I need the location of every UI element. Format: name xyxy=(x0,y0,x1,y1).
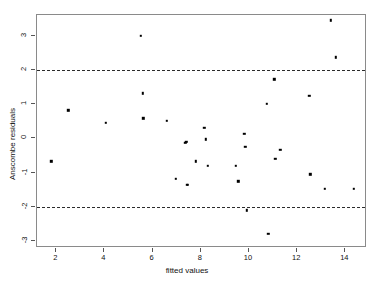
y-tick xyxy=(31,69,35,70)
y-tick-label: 3 xyxy=(19,32,28,36)
data-point xyxy=(204,138,206,140)
data-point xyxy=(139,34,141,36)
x-tick-label: 6 xyxy=(150,253,154,262)
data-point xyxy=(207,165,209,167)
refline-lower-bound xyxy=(37,207,365,208)
y-tick xyxy=(31,35,35,36)
data-point xyxy=(235,165,237,167)
data-point xyxy=(237,180,239,182)
data-point xyxy=(245,209,247,211)
x-tick xyxy=(344,248,345,252)
data-point xyxy=(353,188,355,190)
x-tick xyxy=(103,248,104,252)
y-tick-label: 0 xyxy=(19,135,28,139)
data-point xyxy=(142,92,144,94)
x-tick-label: 8 xyxy=(198,253,202,262)
data-point xyxy=(273,78,275,80)
data-point xyxy=(243,133,245,135)
y-tick-label: -2 xyxy=(20,203,29,210)
data-point xyxy=(203,127,205,129)
x-tick xyxy=(200,248,201,252)
data-point xyxy=(330,19,332,21)
data-point xyxy=(308,94,310,96)
y-tick xyxy=(31,240,35,241)
y-tick-label: -1 xyxy=(20,168,29,175)
data-point xyxy=(267,232,269,234)
data-point xyxy=(104,122,106,124)
x-tick xyxy=(55,248,56,252)
y-tick xyxy=(31,103,35,104)
data-point xyxy=(185,141,187,143)
x-tick xyxy=(248,248,249,252)
data-point xyxy=(274,158,276,160)
residual-plot: 2468101214 3210-1-2-3 fitted values Ansc… xyxy=(0,0,374,287)
y-tick-label: -3 xyxy=(20,237,29,244)
data-point xyxy=(186,183,188,185)
data-point xyxy=(309,173,311,175)
data-point xyxy=(195,160,197,162)
y-tick xyxy=(31,172,35,173)
x-axis-label: fitted values xyxy=(0,266,374,275)
y-tick xyxy=(31,137,35,138)
x-tick-label: 12 xyxy=(292,253,300,262)
x-tick-label: 14 xyxy=(340,253,348,262)
x-tick xyxy=(152,248,153,252)
data-point xyxy=(279,148,281,150)
data-point xyxy=(334,56,336,58)
x-tick-label: 4 xyxy=(101,253,105,262)
refline-upper-bound xyxy=(37,70,365,71)
y-tick-label: 2 xyxy=(19,67,28,71)
data-point xyxy=(244,146,246,148)
data-point xyxy=(174,178,176,180)
data-point xyxy=(166,119,168,121)
data-point xyxy=(67,109,69,111)
y-tick-label: 1 xyxy=(19,101,28,105)
data-point xyxy=(324,188,326,190)
y-tick xyxy=(31,206,35,207)
data-point xyxy=(142,117,144,119)
y-axis-label: Anscombe residuals xyxy=(8,84,17,204)
plot-panel xyxy=(36,14,366,247)
data-point xyxy=(50,160,52,162)
x-tick xyxy=(296,248,297,252)
x-tick-label: 10 xyxy=(244,253,252,262)
data-point xyxy=(266,103,268,105)
x-tick-label: 2 xyxy=(53,253,57,262)
